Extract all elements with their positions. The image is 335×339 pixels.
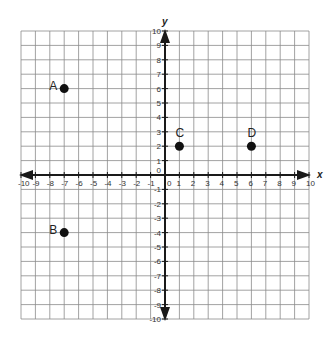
y-tick-label: -1 [154,185,162,194]
x-tick-label: 9 [292,179,297,188]
y-axis-label: y [161,16,168,27]
x-tick-label: -5 [90,179,98,188]
x-tick-label: 2 [191,179,196,188]
y-tick-label: 3 [157,128,162,137]
y-tick-label: 7 [157,70,162,79]
x-tick-label: 6 [248,179,253,188]
point-label-b: B [49,223,57,237]
x-tick-label: -3 [119,179,127,188]
x-tick-label: 5 [234,179,239,188]
x-tick-label: -9 [32,179,40,188]
point-b [60,228,69,237]
x-tick-label: 10 [306,179,315,188]
x-tick-label: 3 [205,179,210,188]
y-tick-label: 2 [157,142,162,151]
x-tick-label: -8 [47,179,55,188]
y-tick-label: -4 [154,229,162,238]
y-tick-label: -9 [154,301,162,310]
y-tick-label: 6 [157,85,162,94]
x-axis-label: x [316,169,323,180]
x-tick-label: 4 [220,179,225,188]
x-tick-label: 7 [263,179,268,188]
x-tick-label: -7 [61,179,69,188]
data-points: ABCD [49,79,256,238]
y-tick-label: -8 [154,286,162,295]
y-tick-label: 10 [152,27,161,36]
y-tick-label: -3 [154,214,162,223]
y-tick-label: -10 [149,315,161,324]
point-c [175,142,184,151]
point-label-c: C [175,126,184,140]
point-d [247,142,256,151]
y-tick-label: 9 [157,41,162,50]
y-tick-label: 1 [157,157,162,166]
x-tick-label: -6 [76,179,84,188]
y-tick-label: -7 [154,272,162,281]
y-tick-label: 4 [157,113,162,122]
x-tick-label: 0 [167,179,172,188]
x-tick-label: 8 [277,179,282,188]
point-a [60,84,69,93]
point-label-a: A [49,79,57,93]
y-tick-label: 5 [157,99,162,108]
y-tick-label: -2 [154,200,162,209]
y-tick-label: 8 [157,56,162,65]
x-tick-label: -10 [18,179,30,188]
x-tick-label: 1 [176,179,181,188]
x-tick-label: -4 [104,179,112,188]
y-tick-label: 0 [157,166,162,175]
point-label-d: D [247,126,256,140]
y-tick-label: -5 [154,243,162,252]
coordinate-plane: xy -10-9-8-7-6-5-4-3-2-1012345678910-10-… [0,0,335,339]
y-tick-label: -6 [154,257,162,266]
x-tick-label: -2 [133,179,141,188]
